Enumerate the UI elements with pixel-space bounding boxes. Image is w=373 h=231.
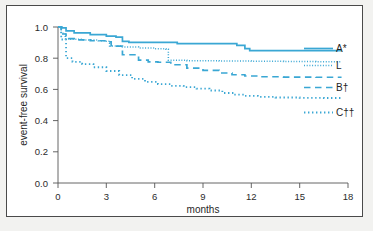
y-axis-ticks — [53, 27, 58, 183]
y-tick-label-0.6: 0.6 — [35, 84, 48, 95]
y-tick-label-0.4: 0.4 — [35, 115, 48, 126]
x-tick-label-3: 3 — [104, 191, 109, 202]
x-axis-ticks — [58, 183, 348, 188]
x-tick-label-9: 9 — [200, 191, 205, 202]
x-tick-label-6: 6 — [152, 191, 157, 202]
legend-label-C: C†† — [336, 107, 354, 118]
legend-label-B: B† — [336, 82, 348, 93]
x-tick-label-15: 15 — [294, 191, 305, 202]
y-tick-label-0.0: 0.0 — [35, 178, 48, 189]
x-tick-label-0: 0 — [55, 191, 60, 202]
figure-container: 1.0 0.8 0.6 0.4 0.2 0.0 0 3 6 9 12 15 — [0, 0, 373, 231]
legend-label-A: A* — [336, 43, 347, 54]
x-tick-label-18: 18 — [343, 191, 354, 202]
y-tick-label-0.8: 0.8 — [35, 53, 48, 64]
survival-curve-C — [58, 27, 342, 98]
x-tick-label-12: 12 — [246, 191, 257, 202]
legend: A*LB†C†† — [304, 43, 354, 118]
chart-frame: 1.0 0.8 0.6 0.4 0.2 0.0 0 3 6 9 12 15 — [6, 5, 363, 217]
survival-curve-A — [58, 27, 342, 51]
survival-plot: 1.0 0.8 0.6 0.4 0.2 0.0 0 3 6 9 12 15 — [7, 6, 362, 216]
curve-group — [58, 27, 342, 98]
y-tick-label-0.2: 0.2 — [35, 146, 48, 157]
legend-label-L: L — [336, 60, 342, 71]
y-axis-title: event-free survival — [18, 64, 29, 146]
y-tick-label-1.0: 1.0 — [35, 22, 48, 33]
x-axis-title: months — [187, 204, 220, 215]
